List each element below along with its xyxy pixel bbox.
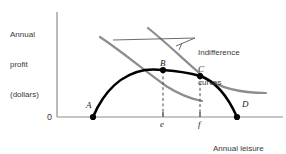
y-axis-label-line1: Annual <box>10 30 39 40</box>
economics-diagram-figure: Annual profit (dollars) 0 Annual leisure… <box>0 0 286 154</box>
origin-label: 0 <box>47 112 52 122</box>
leader-line-curve-2 <box>176 38 195 46</box>
point-label-a: A <box>86 100 92 110</box>
leader-line-curve-1 <box>113 38 195 40</box>
point-label-b: B <box>160 58 166 68</box>
y-axis-label-line3: (dollars) <box>10 90 39 100</box>
tick-label-e: e <box>160 119 164 129</box>
point-marker-d <box>234 114 240 120</box>
x-axis-label-line1: Annual leisure <box>213 144 264 154</box>
y-axis-label-line2: profit <box>10 60 39 70</box>
tick-label-f: f <box>198 119 201 129</box>
x-axis-label: Annual leisure (days) <box>213 124 264 154</box>
point-marker-a <box>90 114 96 120</box>
indifference-curves-annotation: Indifference curves <box>198 28 240 108</box>
indifference-annotation-line2: curves <box>198 78 240 88</box>
indifference-annotation-line1: Indifference <box>198 48 240 58</box>
point-label-d: D <box>242 99 249 109</box>
point-label-c: C <box>198 64 204 74</box>
y-axis-label: Annual profit (dollars) <box>10 10 39 120</box>
